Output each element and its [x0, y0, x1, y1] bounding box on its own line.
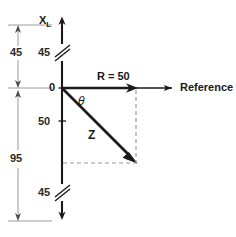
axis-tick-45-upper: 45	[38, 47, 50, 58]
diagram-canvas	[0, 0, 236, 237]
axis-label-xl: XL	[39, 15, 51, 29]
impedance-label: Z	[88, 129, 95, 141]
resistance-label: R = 50	[97, 71, 130, 82]
axis-tick-50: 50	[38, 116, 50, 127]
dimension-45: 45	[10, 47, 22, 58]
impedance-vector	[63, 89, 138, 164]
axis-break-upper	[55, 44, 70, 61]
axis-label-subscript: L	[46, 20, 51, 29]
origin-label: 0	[49, 82, 55, 93]
dimension-95: 95	[10, 153, 22, 164]
figure-container: XL 45 45 0 50 95 45 R = 50 Reference θ Z	[0, 0, 236, 237]
reference-label: Reference	[180, 82, 233, 93]
resistance-vector	[62, 83, 138, 93]
angle-theta-label: θ	[78, 95, 85, 107]
axis-tick-45-lower: 45	[38, 187, 50, 198]
axis-break-lower	[55, 184, 70, 201]
